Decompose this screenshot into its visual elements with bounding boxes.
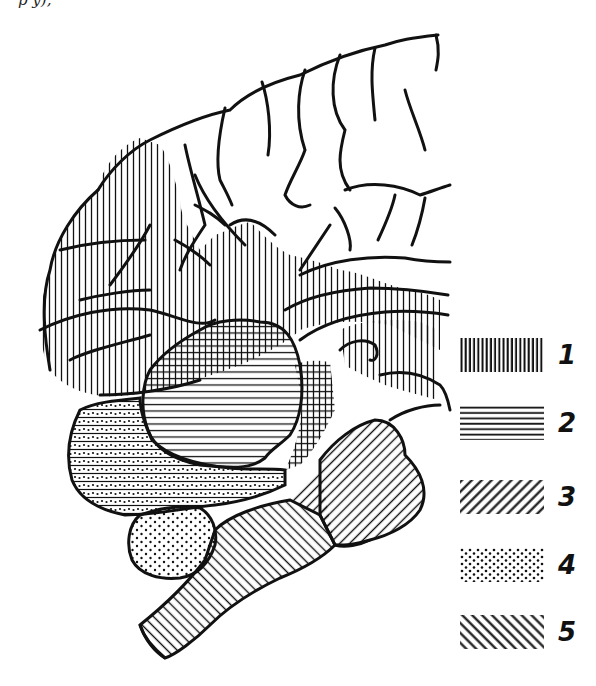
legend-number: 3 — [558, 480, 576, 514]
region-callosum-vertical — [340, 320, 438, 400]
legend-number: 5 — [558, 615, 576, 649]
legend-swatch-diagonal-forward — [460, 480, 544, 514]
legend-swatch-diagonal-backward — [460, 615, 544, 649]
legend-item-5: 5 — [458, 615, 588, 651]
legend-swatch-dots — [460, 548, 544, 582]
legend-item-3: 3 — [458, 480, 588, 516]
region-midbrain-diagonal — [320, 420, 424, 545]
legend-item-2: 2 — [458, 406, 588, 442]
legend-item-1: 1 — [458, 338, 588, 374]
legend-swatch-vertical-lines — [460, 338, 544, 372]
legend-number: 4 — [558, 548, 576, 582]
legend-item-4: 4 — [458, 548, 588, 584]
legend-number: 1 — [558, 338, 576, 372]
legend-number: 2 — [558, 406, 576, 440]
legend-swatch-horizontal-lines — [460, 406, 544, 440]
